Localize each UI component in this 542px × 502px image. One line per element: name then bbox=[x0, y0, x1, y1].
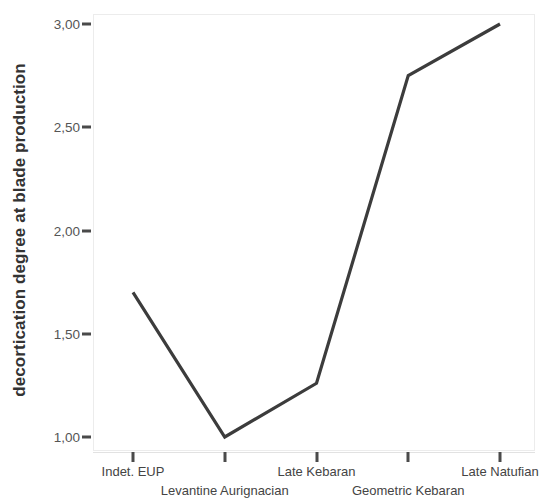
x-tick-label: Indet. EUP bbox=[102, 464, 165, 479]
chart-figure: decortication degree at blade production… bbox=[0, 0, 542, 502]
y-tick-label: 3,00 bbox=[20, 17, 80, 32]
y-tick-label: 1,00 bbox=[20, 430, 80, 445]
x-tick-mark bbox=[223, 452, 226, 462]
x-tick-label: Geometric Kebaran bbox=[352, 483, 465, 498]
y-tick-mark bbox=[82, 23, 91, 26]
x-tick-mark bbox=[315, 452, 318, 462]
x-tick-label: Levantine Aurignacian bbox=[161, 483, 289, 498]
x-tick-mark bbox=[407, 452, 410, 462]
x-tick-mark bbox=[132, 452, 135, 462]
y-tick-mark bbox=[82, 229, 91, 232]
x-tick-label: Late Natufian bbox=[461, 464, 538, 479]
plot-area bbox=[93, 14, 535, 451]
x-tick-mark bbox=[499, 452, 502, 462]
y-tick-mark bbox=[82, 332, 91, 335]
y-tick-mark bbox=[82, 436, 91, 439]
y-tick-label: 2,00 bbox=[20, 223, 80, 238]
y-tick-mark bbox=[82, 126, 91, 129]
y-tick-label: 1,50 bbox=[20, 326, 80, 341]
x-tick-label: Late Kebaran bbox=[277, 464, 355, 479]
y-tick-label: 2,50 bbox=[20, 120, 80, 135]
x-axis-line bbox=[93, 452, 535, 453]
